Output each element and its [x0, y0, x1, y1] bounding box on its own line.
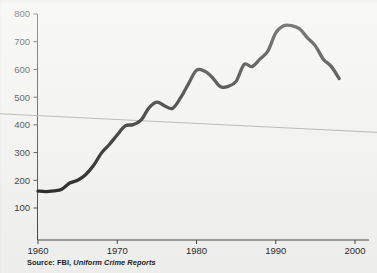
x-tick-label-1960: 1960: [27, 245, 48, 256]
y-tick-label-600: 600: [14, 64, 30, 75]
x-tick-label-2000: 2000: [344, 245, 365, 256]
y-tick-label-300: 300: [14, 147, 30, 158]
chart-background: [0, 0, 377, 273]
source-note: Source: FBI, Uniform Crime Reports: [27, 258, 156, 267]
y-tick-label-500: 500: [14, 92, 30, 103]
violent-crime-rate-line-chart: 100200300400500600700800 196019701980199…: [0, 0, 377, 273]
y-tick-label-200: 200: [14, 175, 30, 186]
x-tick-label-1990: 1990: [265, 245, 286, 256]
chart-figure: 100200300400500600700800 196019701980199…: [0, 0, 377, 273]
source-prefix: Source: FBI,: [27, 258, 71, 267]
source-publication-title: Uniform Crime Reports: [73, 258, 155, 267]
x-tick-label-1970: 1970: [107, 245, 128, 256]
y-tick-label-400: 400: [14, 119, 30, 130]
y-tick-label-700: 700: [14, 36, 30, 47]
y-tick-label-100: 100: [14, 202, 30, 213]
x-tick-label-1980: 1980: [186, 245, 207, 256]
y-tick-label-800: 800: [14, 8, 30, 19]
